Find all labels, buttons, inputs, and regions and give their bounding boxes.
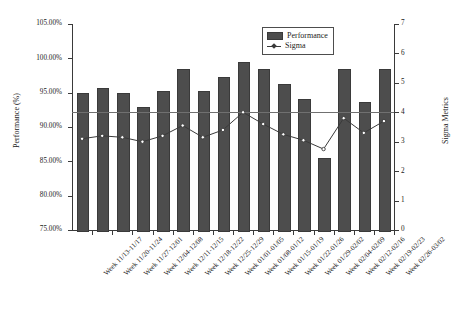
y-axis-right-tick xyxy=(395,142,399,143)
legend-label-performance: Performance xyxy=(287,32,328,40)
bar-performance xyxy=(278,84,290,232)
bar-performance xyxy=(137,107,149,232)
y-axis-right-tick-label: 0 xyxy=(401,226,405,233)
x-axis-tick xyxy=(92,231,93,235)
x-axis-tick xyxy=(173,231,174,235)
legend-label-sigma: Sigma xyxy=(285,42,305,50)
y-axis-left-tick xyxy=(68,24,72,25)
bar-performance xyxy=(338,69,350,232)
y-axis-left-tick-label: 95.00% xyxy=(0,89,62,96)
x-axis-tick xyxy=(213,231,214,235)
legend-item-performance: Performance xyxy=(267,31,328,41)
x-axis-tick xyxy=(153,231,154,235)
y-axis-right-tick xyxy=(395,112,399,113)
performance-sigma-chart: 75.00%80.00%85.00%90.00%95.00%100.00%105… xyxy=(0,0,455,309)
y-axis-right-tick-label: 6 xyxy=(401,50,405,57)
y-axis-right-tick xyxy=(395,83,399,84)
x-axis-tick xyxy=(394,231,395,235)
x-axis-tick xyxy=(132,231,133,235)
line-marker-icon xyxy=(267,43,281,49)
x-axis-tick xyxy=(193,231,194,235)
bar-performance xyxy=(379,69,391,232)
y-axis-left-tick-label: 90.00% xyxy=(0,123,62,130)
y-axis-left-tick-label: 105.00% xyxy=(0,20,62,27)
bar-performance xyxy=(238,62,250,232)
y-axis-left-tick xyxy=(68,127,72,128)
x-axis-tick xyxy=(293,231,294,235)
x-axis-tick xyxy=(273,231,274,235)
bar-performance xyxy=(258,69,270,232)
y-axis-left-line xyxy=(72,24,73,231)
x-axis-tick xyxy=(374,231,375,235)
y-axis-right-tick xyxy=(395,53,399,54)
y-axis-left-tick xyxy=(68,230,72,231)
y-axis-right-tick-label: 3 xyxy=(401,138,405,145)
y-axis-right-tick-label: 7 xyxy=(401,20,405,27)
y-axis-right-tick-label: 5 xyxy=(401,79,405,86)
y-axis-right-tick xyxy=(395,171,399,172)
bar-performance xyxy=(298,99,310,232)
x-axis-tick-label: Week 02/26-03/02 xyxy=(405,236,447,278)
reference-line xyxy=(72,112,394,113)
y-axis-left-tick-label: 75.00% xyxy=(0,226,62,233)
x-axis-tick xyxy=(112,231,113,235)
bar-performance xyxy=(359,102,371,232)
y-axis-right-title: Sigma Metrics xyxy=(441,61,450,181)
bar-performance xyxy=(117,93,129,232)
y-axis-left-tick xyxy=(68,196,72,197)
y-axis-left-tick xyxy=(68,58,72,59)
chart-legend: Performance Sigma xyxy=(262,27,334,55)
x-axis-tick xyxy=(354,231,355,235)
legend-item-sigma: Sigma xyxy=(267,41,328,51)
x-axis-tick xyxy=(314,231,315,235)
bar-performance xyxy=(177,69,189,232)
y-axis-left-tick xyxy=(68,93,72,94)
bar-swatch-icon xyxy=(267,32,283,40)
bar-performance xyxy=(318,158,330,232)
y-axis-right-tick-label: 2 xyxy=(401,168,405,175)
y-axis-right-tick-label: 4 xyxy=(401,109,405,116)
y-axis-right-tick-label: 1 xyxy=(401,197,405,204)
x-axis-tick xyxy=(233,231,234,235)
y-axis-left-tick-label: 80.00% xyxy=(0,192,62,199)
y-axis-left-tick-label: 85.00% xyxy=(0,158,62,165)
y-axis-right-tick xyxy=(395,201,399,202)
y-axis-left-title: Performance (%) xyxy=(12,61,21,181)
x-axis-tick xyxy=(334,231,335,235)
bar-performance xyxy=(218,77,230,232)
y-axis-left-tick-label: 100.00% xyxy=(0,55,62,62)
y-axis-right-tick xyxy=(395,230,399,231)
bar-performance xyxy=(97,88,109,232)
y-axis-left-tick xyxy=(68,161,72,162)
x-axis-tick xyxy=(253,231,254,235)
bar-performance xyxy=(77,93,89,232)
y-axis-right-tick xyxy=(395,24,399,25)
